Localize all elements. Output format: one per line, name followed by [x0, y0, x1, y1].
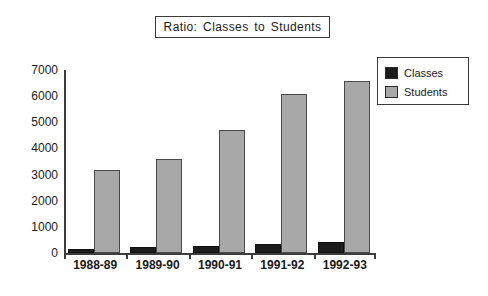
bar-classes	[130, 247, 156, 253]
y-axis-tick-label: 7000	[12, 64, 58, 76]
bar-students	[281, 94, 307, 253]
x-axis-tick-label: 1991-92	[251, 258, 313, 272]
x-axis-line	[64, 253, 376, 255]
bar-students	[344, 81, 370, 253]
y-axis-tick-label: 2000	[12, 195, 58, 207]
x-axis-tick-label: 1990-91	[189, 258, 251, 272]
bar-classes	[318, 242, 344, 253]
bar-group	[318, 70, 370, 253]
bar-group	[193, 70, 245, 253]
bar-classes	[255, 244, 281, 253]
bar-students	[94, 170, 120, 253]
page-title: Ratio: Classes to Students	[164, 20, 322, 34]
x-axis-tick-label: 1989-90	[126, 258, 188, 272]
bar-classes	[193, 246, 219, 253]
x-axis-tick-label: 1988-89	[64, 258, 126, 272]
chart-title-box: Ratio: Classes to Students	[155, 16, 330, 38]
y-axis-tick-label: 1000	[12, 221, 58, 233]
bar-students	[156, 159, 182, 253]
y-axis-tick-labels: 01000200030004000500060007000	[8, 70, 58, 253]
bar-classes	[68, 249, 94, 253]
chart-legend: Classes Students	[377, 57, 469, 105]
legend-label-students: Students	[404, 86, 447, 98]
y-axis-tick-label: 4000	[12, 142, 58, 154]
legend-label-classes: Classes	[404, 67, 443, 79]
legend-item-classes: Classes	[385, 63, 468, 82]
plot-area	[64, 70, 376, 253]
y-axis-tick-label: 0	[12, 247, 58, 259]
bar-group	[130, 70, 182, 253]
x-axis-tick-label: 1992-93	[314, 258, 376, 272]
y-axis-tick-label: 3000	[12, 169, 58, 181]
bar-students	[219, 130, 245, 253]
legend-swatch-classes	[385, 67, 398, 79]
y-axis-tick-label: 5000	[12, 116, 58, 128]
bar-group	[68, 70, 120, 253]
legend-item-students: Students	[385, 82, 468, 101]
y-axis-tick-label: 6000	[12, 90, 58, 102]
y-axis-line	[64, 70, 66, 253]
legend-swatch-students	[385, 86, 398, 98]
bar-group	[255, 70, 307, 253]
x-axis-tick-labels: 1988-891989-901990-911991-921992-93	[64, 258, 384, 274]
